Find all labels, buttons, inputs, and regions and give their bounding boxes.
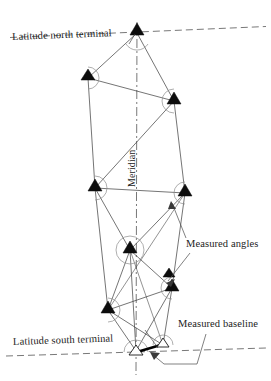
leader-arrow-angles-upper — [168, 201, 176, 209]
station-middle-left — [88, 179, 102, 191]
net-line-C-E — [95, 188, 130, 250]
net-line-N-A — [88, 33, 137, 78]
net-line-A-B — [88, 78, 174, 101]
leader-baseline — [152, 334, 206, 364]
label-measured-baseline: Measured baseline — [178, 318, 258, 329]
leader-south-terminal — [145, 330, 158, 348]
leader-arrow-baseline — [150, 352, 160, 360]
station-center — [123, 241, 137, 253]
net-line-F-G — [108, 288, 172, 310]
leader-angles-lower — [168, 253, 190, 281]
leader-north-terminal — [129, 34, 135, 44]
station-middle-right — [178, 184, 192, 196]
station-north-terminal — [130, 23, 144, 35]
label-meridian: Meridian — [126, 150, 137, 187]
net-line-A-C — [88, 78, 95, 188]
net-line-D-E — [130, 193, 185, 250]
net-line-D-G — [108, 193, 185, 310]
triangulation-diagram: Latitude north terminal Latitude south t… — [0, 0, 271, 381]
net-line-C-D — [95, 188, 185, 193]
label-measured-angles: Measured angles — [186, 238, 258, 249]
station-upper-right — [167, 92, 181, 104]
net-line-B-D — [174, 101, 185, 193]
net-line-C-G — [95, 188, 108, 310]
meridian-line — [136, 22, 137, 375]
net-line-G-S — [108, 310, 136, 351]
station-lower-right-upper — [163, 268, 175, 277]
station-upper-left — [81, 69, 95, 80]
net-line-N-B — [137, 33, 174, 101]
meridian-axis — [136, 22, 137, 375]
